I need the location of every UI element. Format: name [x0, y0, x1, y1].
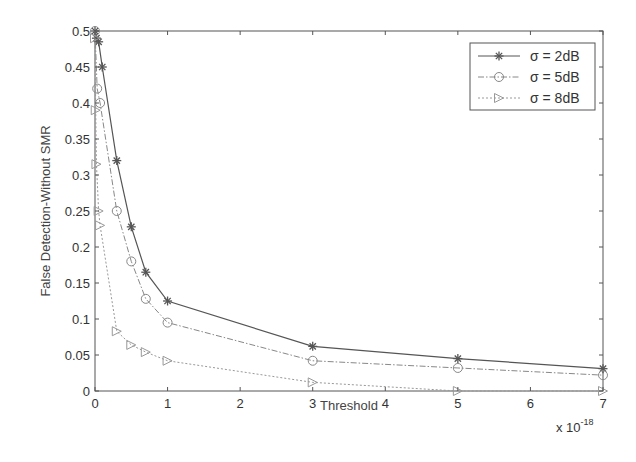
star-marker-icon: [127, 222, 136, 231]
y-tick-label: 0.45: [65, 60, 90, 75]
legend-label: σ = 5dB: [530, 69, 580, 85]
triangle-right-marker-icon: [141, 348, 150, 357]
x-tick-label: 1: [164, 396, 171, 411]
y-tick-label: 0.1: [72, 312, 90, 327]
legend-label: σ = 8dB: [530, 90, 580, 106]
x-tick-label: 6: [527, 396, 534, 411]
x-tick-label: 2: [237, 396, 244, 411]
x-axis-multiplier: x 10-18: [556, 417, 594, 435]
y-tick-label: 0.5: [72, 24, 90, 39]
circle-marker-icon: [163, 318, 172, 327]
circle-marker-icon: [141, 294, 150, 303]
triangle-right-marker-icon: [112, 327, 121, 336]
star-marker-icon: [308, 342, 317, 351]
x-tick-label: 3: [309, 396, 316, 411]
star-marker-icon: [163, 297, 172, 306]
y-axis-label: False Detection-Without SMR: [38, 125, 53, 296]
y-tick-label: 0.25: [65, 204, 90, 219]
y-tick-label: 0.35: [65, 132, 90, 147]
legend: σ = 2dBσ = 5dBσ = 8dB: [470, 43, 595, 110]
x-tick-label: 7: [599, 396, 606, 411]
y-tick-label: 0.2: [72, 240, 90, 255]
y-tick-label: 0.4: [72, 96, 90, 111]
x-tick-label: 0: [91, 396, 98, 411]
y-tick-label: 0.3: [72, 168, 90, 183]
y-tick-label: 0.15: [65, 276, 90, 291]
star-marker-icon: [495, 52, 504, 61]
star-marker-icon: [112, 156, 121, 165]
star-marker-icon: [98, 63, 107, 72]
y-tick-label: 0: [83, 384, 90, 399]
star-marker-icon: [141, 268, 150, 277]
y-tick-label: 0.05: [65, 348, 90, 363]
line-chart: 01234567 00.050.10.150.20.250.30.350.40.…: [0, 0, 636, 462]
x-axis-multiplier-exponent: -18: [581, 417, 594, 427]
x-axis-label: Threshold: [320, 398, 378, 413]
x-tick-label: 5: [454, 396, 461, 411]
legend-label: σ = 2dB: [530, 48, 580, 64]
star-marker-icon: [453, 354, 462, 363]
x-tick-label: 4: [382, 396, 389, 411]
